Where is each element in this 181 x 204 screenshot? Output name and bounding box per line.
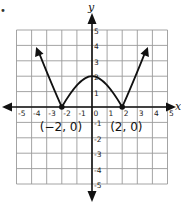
y-tick-label: -3 — [94, 150, 102, 159]
x-tick-label: 4 — [154, 109, 159, 118]
x-tick-label: -2 — [63, 109, 71, 118]
x-tick-label: -3 — [48, 109, 56, 118]
x-tick-label: 2 — [124, 109, 129, 118]
y-axis-down-arrow-icon — [88, 191, 97, 202]
y-tick-label: 5 — [94, 27, 99, 36]
x-tick-label: -1 — [78, 109, 86, 118]
point-label: (2, 0) — [110, 120, 142, 134]
x-axis-left-arrow-icon — [2, 103, 12, 112]
x-tick-labels: -5-4-3-2-1012345 — [18, 109, 174, 118]
point-label: (−2, 0) — [40, 120, 82, 134]
x-tick-label: 5 — [169, 109, 174, 118]
y-tick-label: -2 — [94, 135, 102, 144]
graph-canvas: • x y -5-4-3-2-1012345 12345-1-2-3-4-5 (… — [0, 0, 181, 204]
y-tick-label: -5 — [94, 181, 102, 190]
y-tick-label: 4 — [94, 42, 99, 51]
x-tick-label: -5 — [18, 109, 26, 118]
y-tick-label: 1 — [94, 89, 99, 98]
x-tick-label: 0 — [94, 109, 99, 118]
x-tick-label: 1 — [109, 109, 114, 118]
y-tick-label: -4 — [94, 166, 102, 175]
y-axis-up-arrow-icon — [88, 13, 97, 24]
y-tick-label: -1 — [94, 119, 102, 128]
x-tick-label: -4 — [33, 109, 41, 118]
point-marker — [59, 104, 65, 110]
point-marker — [119, 104, 125, 110]
x-tick-label: 3 — [139, 109, 144, 118]
y-axis-label: y — [87, 1, 95, 14]
bullet-dot: • — [0, 5, 6, 16]
y-tick-label: 3 — [94, 58, 99, 67]
x-axis-label: x — [175, 100, 181, 113]
